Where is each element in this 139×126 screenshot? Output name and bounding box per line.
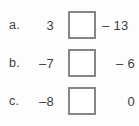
right-operand-a: – 13: [102, 18, 138, 33]
row-label-b: b.: [9, 56, 25, 70]
answer-box-c[interactable]: [68, 87, 96, 115]
answer-box-b[interactable]: [68, 49, 96, 77]
answer-box-a[interactable]: [68, 11, 96, 39]
row-label-a: a.: [9, 18, 25, 32]
right-operand-c: 0: [97, 94, 135, 109]
left-operand-b: –7: [26, 56, 54, 71]
problem-row: b. –7 – 6: [0, 46, 139, 80]
right-operand-b: – 6: [97, 56, 135, 71]
worksheet-container: a. 3 – 13 b. –7 – 6 c. –8 0: [0, 0, 139, 126]
left-operand-c: –8: [26, 94, 54, 109]
problem-row: a. 3 – 13: [0, 8, 139, 42]
left-operand-a: 3: [26, 18, 54, 33]
row-label-c: c.: [9, 94, 25, 108]
problem-row: c. –8 0: [0, 84, 139, 118]
